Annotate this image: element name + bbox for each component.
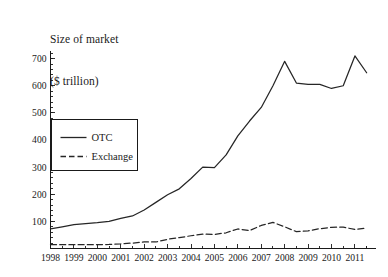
x-tick-label: 2003 — [158, 252, 177, 263]
x-tick-label: 2002 — [135, 252, 154, 263]
series-exchange — [51, 222, 367, 244]
x-tick-label: 2005 — [205, 252, 224, 263]
x-tick-label: 2007 — [252, 252, 271, 263]
x-tick-label: 2009 — [298, 252, 317, 263]
x-tick-label: 2000 — [88, 252, 107, 263]
y-tick-label: 500 — [32, 107, 47, 118]
y-tick-label: 300 — [32, 162, 47, 173]
x-tick-label: 1998 — [41, 252, 60, 263]
y-tick-label: 700 — [32, 53, 47, 64]
y-tick-label: 400 — [32, 134, 47, 145]
legend-box — [52, 120, 138, 171]
chart-legend: OTCExchange — [52, 120, 138, 171]
y-tick-label: 600 — [32, 80, 47, 91]
x-tick-label: 2010 — [322, 252, 341, 263]
x-tick-label: 2001 — [111, 252, 130, 263]
x-axis: 1998199920002001200220032004200520062007… — [41, 244, 376, 263]
legend-label-exchange: Exchange — [92, 151, 134, 162]
x-tick-label: 2008 — [275, 252, 294, 263]
chart-plot-area: 100200300400500600700 199819992000200120… — [0, 0, 388, 277]
x-tick-label: 2006 — [228, 252, 247, 263]
y-tick-label: 100 — [32, 216, 47, 227]
y-tick-label: 200 — [32, 189, 47, 200]
legend-label-otc: OTC — [92, 132, 113, 143]
x-tick-label: 2011 — [346, 252, 365, 263]
x-tick-label: 1999 — [64, 252, 83, 263]
chart-figure: Size of market ($ trillion) 100200300400… — [0, 0, 388, 277]
x-tick-label: 2004 — [181, 252, 200, 263]
